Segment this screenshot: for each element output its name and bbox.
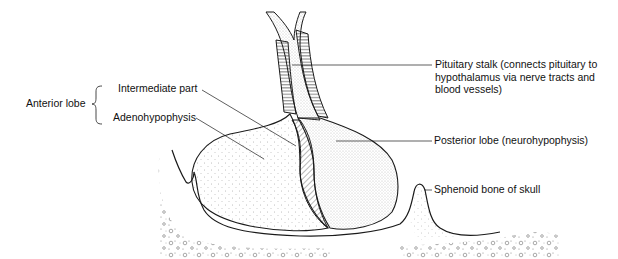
label-posterior-lobe: Posterior lobe (neurohypophysis) — [434, 134, 588, 147]
label-intermediate-part: Intermediate part — [118, 82, 197, 95]
label-pituitary-stalk: Pituitary stalk (connects pituitary to h… — [435, 58, 597, 96]
label-sphenoid-bone: Sphenoid bone of skull — [434, 183, 540, 196]
pituitary-stalk — [266, 12, 328, 120]
pituitary-diagram — [0, 0, 618, 259]
label-anterior-lobe: Anterior lobe — [26, 97, 86, 110]
label-adenohypophysis: Adenohypophysis — [113, 111, 196, 124]
anterior-lobe-brace — [92, 86, 102, 124]
